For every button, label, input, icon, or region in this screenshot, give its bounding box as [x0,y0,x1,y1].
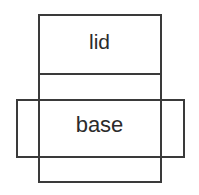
base-panel-label: base [38,114,161,136]
box-net-diagram: lid base [0,0,199,195]
lid-panel-label: lid [38,31,161,52]
